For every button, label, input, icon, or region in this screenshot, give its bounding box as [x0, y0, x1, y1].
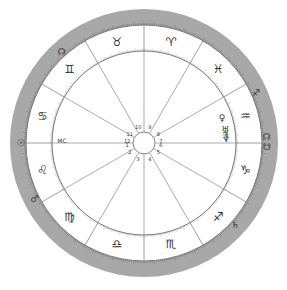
- house-number-4: 4: [148, 156, 151, 162]
- sign-glyph-sagittarius: ♐: [213, 210, 224, 224]
- sign-glyph-gemini: ♊: [64, 62, 75, 76]
- sign-glyph-cancer: ♋: [37, 109, 48, 123]
- sign-glyph-leo: ♌: [37, 163, 48, 177]
- center-hub: [133, 132, 155, 154]
- house-number-11: 11: [127, 131, 133, 137]
- sign-glyph-pisces: ♓: [213, 62, 224, 76]
- sign-glyph-scorpio: ♏: [166, 237, 177, 251]
- astrology-chart-wheel: ♈♉♊♋♌♍♎♏♐♑♒♓ 123456789101112 ☉♂☊♐☊☋♄ ♀♅♃…: [0, 0, 287, 290]
- sign-glyph-aquarius: ♒: [240, 109, 251, 123]
- planet-mars-icon: ♂: [30, 194, 38, 204]
- house-number-8: 8: [157, 131, 160, 137]
- planet-south-node-icon: ☋: [263, 142, 271, 152]
- sign-glyph-virgo: ♍: [64, 210, 75, 224]
- sign-glyph-libra: ♎: [111, 237, 122, 251]
- sign-glyph-aries: ♈: [166, 35, 177, 49]
- planet-north-node-icon: ☊: [263, 132, 271, 142]
- house-number-3: 3: [137, 156, 140, 162]
- planet-mc-icon: MC: [57, 137, 66, 144]
- house-number-9: 9: [148, 124, 151, 130]
- house-number-12: 12: [124, 138, 130, 144]
- sign-glyph-capricorn: ♑: [240, 163, 251, 177]
- house-number-2: 2: [128, 149, 131, 155]
- planet-sun-icon: ☉: [17, 138, 25, 148]
- house-number-7: 7: [159, 138, 162, 144]
- planet-moon-node-icon: ☊: [58, 47, 66, 57]
- sign-glyph-taurus: ♉: [111, 35, 122, 49]
- planet-venus-icon: ♀: [219, 113, 226, 123]
- planet-saturn-icon: ♄: [231, 220, 239, 230]
- house-number-10: 10: [135, 124, 141, 130]
- planet-sagittarius-marker-icon: ♐: [252, 88, 260, 98]
- planet-neptune-icon: ♆: [222, 134, 230, 144]
- house-number-5: 5: [157, 149, 160, 155]
